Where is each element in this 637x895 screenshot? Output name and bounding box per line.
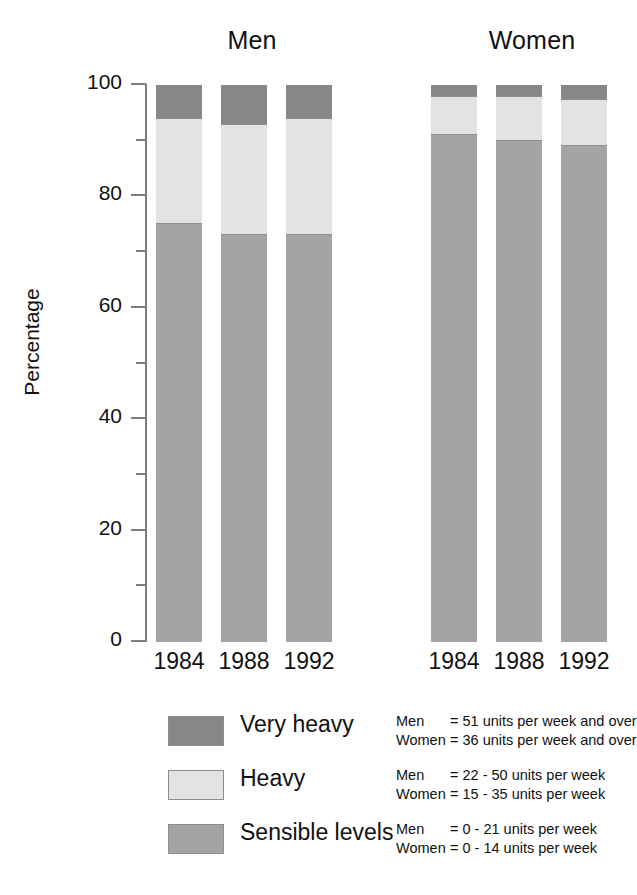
- bar-men-1984[interactable]: [156, 85, 202, 642]
- x-label-women-1992: 1992: [549, 648, 619, 675]
- legend-detail-very-heavy: Men= 51 units per week and overWomen= 36…: [396, 712, 637, 750]
- x-label-women-1988: 1988: [484, 648, 554, 675]
- legend-detail-line: Women= 36 units per week and over: [396, 731, 637, 750]
- legend-detail-sensible-levels: Men= 0 - 21 units per weekWomen= 0 - 14 …: [396, 820, 597, 858]
- segment-men-1984-sensible-levels[interactable]: [156, 224, 202, 642]
- segment-women-1988-sensible-levels[interactable]: [496, 141, 542, 642]
- segment-men-1992-sensible-levels[interactable]: [286, 235, 332, 642]
- x-label-women-1984: 1984: [419, 648, 489, 675]
- legend-detail-who: Women: [396, 785, 450, 804]
- group-title-men: Men: [182, 26, 322, 55]
- segment-men-1992-very-heavy[interactable]: [286, 85, 332, 118]
- bar-women-1992[interactable]: [561, 85, 607, 642]
- legend-detail-text: = 0 - 14 units per week: [450, 840, 597, 856]
- legend-detail-who: Men: [396, 766, 450, 785]
- x-label-men-1984: 1984: [144, 648, 214, 675]
- legend-detail-line: Men= 22 - 50 units per week: [396, 766, 605, 785]
- segment-women-1992-sensible-levels[interactable]: [561, 146, 607, 642]
- segment-women-1984-very-heavy[interactable]: [431, 85, 477, 96]
- segment-women-1988-heavy[interactable]: [496, 96, 542, 141]
- group-title-women: Women: [452, 26, 612, 55]
- legend-detail-text: = 36 units per week and over: [450, 732, 637, 748]
- segment-men-1988-very-heavy[interactable]: [221, 85, 267, 124]
- legend-detail-line: Women= 15 - 35 units per week: [396, 785, 605, 804]
- legend-detail-who: Women: [396, 839, 450, 858]
- legend-detail-text: = 0 - 21 units per week: [450, 821, 597, 837]
- legend-detail-heavy: Men= 22 - 50 units per weekWomen= 15 - 3…: [396, 766, 605, 804]
- segment-men-1984-heavy[interactable]: [156, 118, 202, 224]
- x-label-men-1992: 1992: [274, 648, 344, 675]
- segment-women-1992-heavy[interactable]: [561, 99, 607, 146]
- segment-women-1988-very-heavy[interactable]: [496, 85, 542, 96]
- legend-item-very-heavy[interactable]: Very heavyMen= 51 units per week and ove…: [0, 712, 632, 756]
- segment-men-1984-very-heavy[interactable]: [156, 85, 202, 118]
- plot-area: [0, 84, 632, 642]
- segment-women-1984-sensible-levels[interactable]: [431, 135, 477, 642]
- x-label-men-1988: 1988: [209, 648, 279, 675]
- legend-detail-text: = 51 units per week and over: [450, 713, 637, 729]
- legend-detail-text: = 22 - 50 units per week: [450, 767, 605, 783]
- legend-item-sensible-levels[interactable]: Sensible levelsMen= 0 - 21 units per wee…: [0, 820, 632, 864]
- legend-label-sensible-levels: Sensible levels: [240, 819, 393, 846]
- segment-women-1992-very-heavy[interactable]: [561, 85, 607, 99]
- bar-women-1988[interactable]: [496, 85, 542, 642]
- legend-detail-who: Women: [396, 731, 450, 750]
- legend-label-very-heavy: Very heavy: [240, 711, 354, 738]
- bar-men-1992[interactable]: [286, 85, 332, 642]
- segment-women-1984-heavy[interactable]: [431, 96, 477, 135]
- legend-swatch-very-heavy: [168, 716, 224, 746]
- bar-women-1984[interactable]: [431, 85, 477, 642]
- legend-detail-line: Men= 0 - 21 units per week: [396, 820, 597, 839]
- legend-detail-line: Men= 51 units per week and over: [396, 712, 637, 731]
- chart-legend: Very heavyMen= 51 units per week and ove…: [0, 712, 632, 862]
- legend-label-heavy: Heavy: [240, 765, 305, 792]
- segment-men-1992-heavy[interactable]: [286, 118, 332, 235]
- legend-swatch-heavy: [168, 770, 224, 800]
- legend-item-heavy[interactable]: HeavyMen= 22 - 50 units per weekWomen= 1…: [0, 766, 632, 810]
- legend-detail-who: Men: [396, 712, 450, 731]
- legend-detail-line: Women= 0 - 14 units per week: [396, 839, 597, 858]
- legend-detail-who: Men: [396, 820, 450, 839]
- bar-men-1988[interactable]: [221, 85, 267, 642]
- segment-men-1988-heavy[interactable]: [221, 124, 267, 235]
- segment-men-1988-sensible-levels[interactable]: [221, 235, 267, 642]
- legend-detail-text: = 15 - 35 units per week: [450, 786, 605, 802]
- legend-swatch-sensible-levels: [168, 824, 224, 854]
